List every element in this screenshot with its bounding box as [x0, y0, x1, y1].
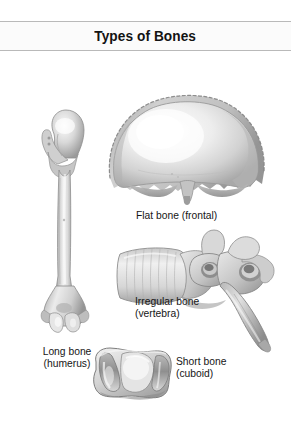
label-short-bone: Short bone (cuboid) [176, 356, 226, 381]
label-flat-bone: Flat bone (frontal) [136, 210, 217, 222]
label-irregular-bone: Irregular bone (vertebra) [135, 296, 199, 321]
vertebra-bone-illustration [116, 228, 278, 356]
bone-types-figure: Types of Bones [0, 0, 291, 427]
frontal-bone-illustration [98, 92, 274, 210]
label-long-bone: Long bone (humerus) [28, 346, 106, 371]
figure-title: Types of Bones [95, 28, 197, 44]
humerus-bone-illustration [34, 108, 96, 344]
figure-title-band: Types of Bones [0, 21, 291, 51]
